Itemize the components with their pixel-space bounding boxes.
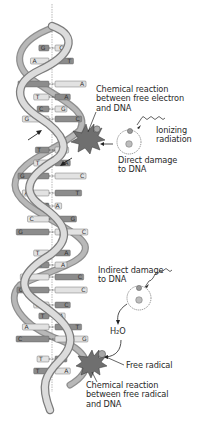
label-ionizing-radiation: Ionizing radiation [156,126,192,145]
svg-text:C: C [78,273,82,280]
atom-direct [117,128,141,154]
svg-text:G: G [61,105,66,112]
atom-indirect [127,285,151,310]
svg-text:C: C [64,301,68,308]
dna-damage-diagram: GCATTATACGGCTATAGCATCACGGCTATAGCGCGCTAAT… [0,0,199,421]
svg-text:G: G [82,335,87,342]
svg-text:T: T [36,146,41,153]
svg-text:G: G [24,115,29,122]
arrow-to-water [116,304,127,325]
pointer-free-radical [106,357,124,365]
svg-text:C: C [39,105,43,112]
base-pair: CG [37,105,67,112]
svg-text:T: T [67,57,72,64]
svg-text:G: G [41,44,46,51]
svg-text:T: T [35,249,40,256]
label-water: H₂O [110,327,126,336]
label-free-radical: Free radical [126,361,172,370]
svg-text:T: T [38,355,43,362]
free-radical-particle [98,350,105,357]
free-electron [94,126,100,132]
svg-text:C: C [81,286,85,293]
svg-text:T: T [75,189,80,196]
label-direct-damage: Direct damage to DNA [118,156,177,175]
svg-text:T: T [35,93,40,100]
label-chemical-reaction-radical: Chemical reaction between free radical a… [86,381,168,409]
svg-text:G: G [71,215,76,222]
svg-text:T: T [35,367,40,374]
label-chemical-reaction-electron: Chemical reaction between free electron … [96,85,184,113]
arrow-direct-damage [100,142,113,146]
svg-text:G: G [18,228,23,235]
svg-text:C: C [18,335,22,342]
svg-text:T: T [75,323,80,330]
svg-text:G: G [20,172,25,179]
svg-text:C: C [29,215,33,222]
svg-text:T: T [40,312,45,319]
strand-arrow-up [28,130,42,140]
label-indirect-damage: Indirect damage to DNA [98,266,164,285]
svg-text:T: T [35,159,40,166]
svg-text:C: C [80,172,84,179]
svg-text:C: C [82,228,86,235]
svg-text:C: C [76,115,80,122]
